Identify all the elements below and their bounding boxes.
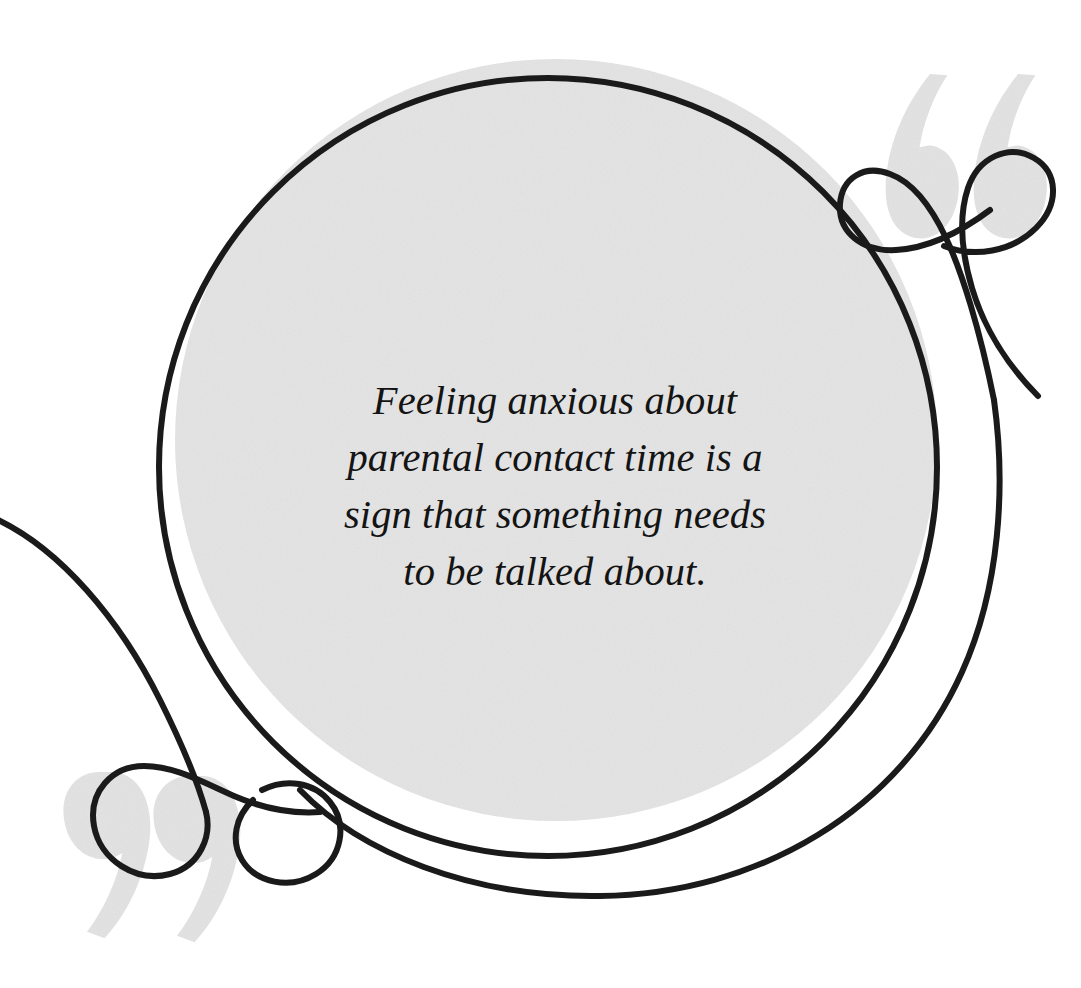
quote-text: Feeling anxious about parental contact t… bbox=[295, 372, 815, 600]
quote-poster: Feeling anxious about parental contact t… bbox=[0, 0, 1081, 988]
quote-block: Feeling anxious about parental contact t… bbox=[295, 372, 815, 600]
closing-quote-marks-decoration bbox=[63, 772, 240, 942]
